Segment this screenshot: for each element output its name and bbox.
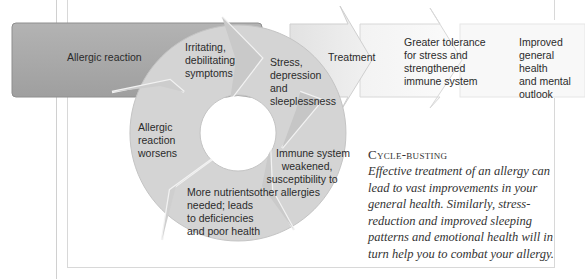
greater-tolerance-label: Greater tolerance for stress and strengt…: [404, 36, 486, 88]
cycle-label-irritating: Irritating, debilitating symptoms: [185, 41, 235, 80]
cycle-label-immune: Immune system weakened, susceptibility t…: [254, 147, 350, 199]
cycle-label-nutrients: More nutrients needed; leads to deficien…: [187, 186, 260, 238]
cycle-label-worsens: Allergic reaction worsens: [138, 121, 177, 160]
cycle-label-stress: Stress, depression and sleeplessness: [270, 56, 336, 108]
allergic-reaction-label: Allergic reaction: [67, 51, 142, 64]
caption-title: Cycle-busting: [368, 147, 447, 163]
improved-health-label: Improved general health and mental outlo…: [519, 36, 585, 101]
caption-body: Effective treatment of an allergy can le…: [368, 163, 573, 263]
